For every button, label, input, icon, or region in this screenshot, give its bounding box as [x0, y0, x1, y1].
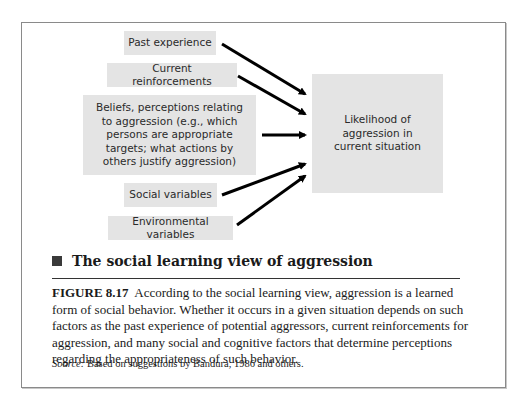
source-text: Based on suggestions by Bandura, 1986 an… [87, 358, 304, 369]
arrow-past-experience [222, 44, 305, 94]
arrow-environmental-variables [237, 176, 305, 225]
arrow-current-reinforcements [238, 76, 305, 114]
heading-text: The social learning view of aggression [72, 253, 373, 269]
figure-label: FIGURE 8.17 [52, 285, 129, 300]
square-bullet-icon [52, 256, 62, 266]
figure-caption: FIGURE 8.17 According to the social lear… [52, 285, 472, 368]
source-label: Source: [52, 358, 84, 369]
arrow-social-variables [222, 164, 305, 195]
heading-rule [52, 278, 460, 279]
figure-heading: The social learning view of aggression [52, 250, 462, 272]
figure-source: Source: Based on suggestions by Bandura,… [52, 358, 472, 369]
